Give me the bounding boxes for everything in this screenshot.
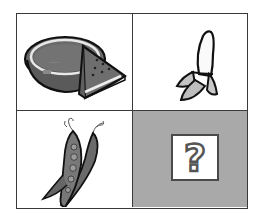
puzzle-grid: • • • • — [16, 13, 248, 209]
watermelon-icon: • • • • — [17, 14, 133, 111]
banana-icon — [133, 14, 247, 111]
question-mark-icon: ? — [184, 139, 206, 177]
svg-text:• • • •: • • • • — [50, 60, 60, 65]
cell-pea-pods — [17, 111, 133, 207]
cell-unknown: ? — [133, 111, 247, 207]
cell-watermelon: • • • • — [17, 14, 133, 111]
cell-banana — [133, 14, 247, 111]
pea-pod-icon — [17, 111, 133, 207]
question-box: ? — [171, 134, 219, 181]
